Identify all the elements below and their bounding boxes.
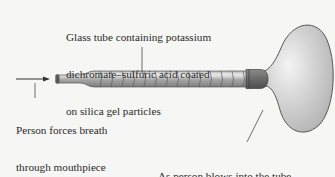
bag-label: As person blows into the tube, the plast… <box>158 145 302 177</box>
mouthpiece-label: Person forces breath through mouthpiece … <box>16 99 107 177</box>
mouthpiece-label-line1: Person forces breath <box>16 124 107 136</box>
tube-label-line1: Glass tube containing potassium <box>66 31 211 43</box>
leader-line-bag <box>247 110 263 142</box>
plastic-bag <box>262 25 333 132</box>
bag-label-line1: As person blows into the tube, <box>158 170 302 177</box>
breath-arrow-icon <box>16 77 50 82</box>
mouthpiece-label-line2: through mouthpiece <box>16 161 107 173</box>
tube-label-line2: dichromate–sulfuric acid coated <box>66 68 211 80</box>
mouthpiece <box>56 75 60 84</box>
